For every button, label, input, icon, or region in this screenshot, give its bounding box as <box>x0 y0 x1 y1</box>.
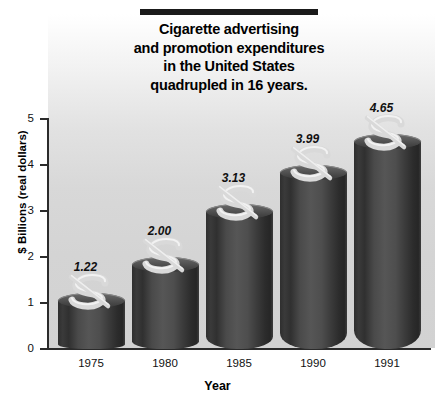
bar-cylinder-body <box>354 141 421 349</box>
dollar-sign-icon <box>280 143 347 183</box>
chart-title-line-1: Cigarette advertising <box>108 20 350 39</box>
bar-1985 <box>206 204 273 349</box>
bar-value-label-1985: 3.13 <box>200 171 267 185</box>
bar-1975 <box>58 293 125 349</box>
y-tick-mark-1 <box>40 302 48 304</box>
bar-cylinder-body <box>132 264 199 349</box>
y-tick-mark-4 <box>40 164 48 166</box>
bar-1990 <box>280 165 347 349</box>
dollar-sign-icon <box>354 112 421 152</box>
bar-cylinder-body <box>206 211 273 349</box>
chart-title-line-4: quadrupled in 16 years. <box>108 76 350 95</box>
y-tick-label-1: 1 <box>8 296 34 308</box>
bar-value-label-1975: 1.22 <box>52 260 119 274</box>
bar-1991 <box>354 134 421 349</box>
y-tick-mark-0 <box>40 348 48 350</box>
y-tick-mark-2 <box>40 256 48 258</box>
y-axis-title: $ Billions (real dollars) <box>16 117 28 267</box>
x-tick-label-1980: 1980 <box>130 357 200 369</box>
y-tick-mark-3 <box>40 210 48 212</box>
chart-title-line-2: and promotion expenditures <box>108 39 350 58</box>
x-tick-label-1975: 1975 <box>56 357 126 369</box>
dollar-sign-icon <box>58 271 125 311</box>
x-tick-label-1985: 1985 <box>204 357 274 369</box>
bar-cylinder-body <box>280 172 347 349</box>
chart-title: Cigarette advertising and promotion expe… <box>108 20 350 94</box>
bar-value-label-1991: 4.65 <box>348 101 415 115</box>
y-tick-label-0: 0 <box>8 342 34 354</box>
x-tick-label-1991: 1991 <box>352 357 422 369</box>
x-tick-label-1990: 1990 <box>278 357 348 369</box>
y-tick-mark-5 <box>40 118 48 120</box>
dollar-sign-icon <box>206 182 273 222</box>
dollar-sign-icon <box>132 235 199 275</box>
bar-value-label-1980: 2.00 <box>126 224 193 238</box>
y-axis-line <box>47 118 49 349</box>
bar-1980 <box>132 257 199 349</box>
chart-title-line-3: in the United States <box>108 57 350 76</box>
x-axis-title: Year <box>0 379 435 393</box>
title-rule-divider <box>140 9 318 15</box>
bar-value-label-1990: 3.99 <box>274 132 341 146</box>
